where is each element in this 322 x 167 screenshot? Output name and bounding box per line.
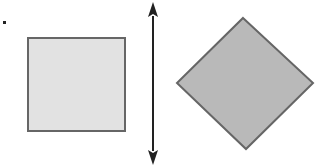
dark-diamond-shape bbox=[177, 18, 313, 149]
arrowhead-down-icon bbox=[148, 150, 158, 165]
light-square-shape bbox=[28, 38, 125, 131]
arrowhead-up-icon bbox=[148, 2, 158, 17]
marker-dot bbox=[3, 21, 6, 24]
reflection-diagram bbox=[0, 0, 322, 167]
